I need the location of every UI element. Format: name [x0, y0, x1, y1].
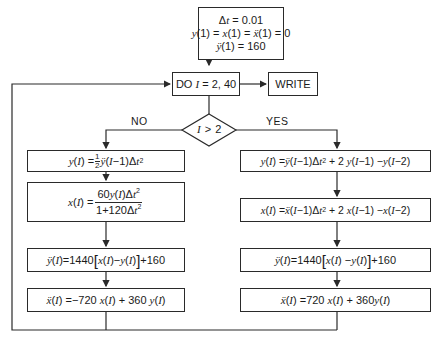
yes-step-4-xddot: ẍ(I) = 720 x(I) + 360y(I) — [240, 288, 431, 312]
init-zero: y(1) = x(1) = ẍ(1) = 0 — [192, 27, 291, 40]
yes-step-2-x: x(I) = ẍ(I−1)Δt2 + 2 x(I−1) − x(I−2) — [240, 198, 431, 222]
do-range: = 2, 40 — [202, 78, 236, 91]
yes-step-3-yddot: ÿ(I)=1440[x(I) − y(I)]+160 — [240, 248, 431, 272]
init-box: Δt = 0.01 y(1) = x(1) = ẍ(1) = 0 ÿ(1) = … — [198, 7, 284, 60]
no-label: NO — [131, 115, 148, 127]
no-step-1-y: y(I) =12ÿ(I−1)Δt2 — [27, 150, 185, 172]
init-dt: Δt = 0.01 — [219, 14, 263, 27]
no-step-4-xddot: ẍ(I) = −720 x(I) + 360 y(I) — [27, 288, 185, 312]
do-keyword: DO — [176, 78, 193, 91]
write-box: WRITE — [268, 72, 318, 96]
yes-label: YES — [266, 115, 289, 127]
init-yddot: ÿ(1) = 160 — [216, 40, 265, 53]
do-loop-box: DO I = 2, 40 — [172, 72, 240, 96]
no-step-2-x: x(I) = 60y(I)Δt21+120Δt2 — [27, 182, 185, 222]
write-label: WRITE — [275, 78, 310, 91]
no-step-3-yddot: ÿ(I)=1440[x(I)−y(I)]+160 — [27, 248, 185, 272]
yes-step-1-y: y(I) = ÿ(I−1)Δt2 + 2 y(I−1) − y(I−2) — [240, 150, 431, 172]
decision-label: I > 2 — [197, 123, 222, 135]
